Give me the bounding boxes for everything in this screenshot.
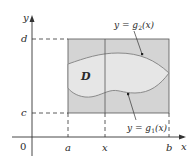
- tick-label-d: d: [21, 33, 27, 44]
- lower-curve-arg: (x): [155, 123, 168, 133]
- upper-curve-prefix: y =: [113, 20, 132, 30]
- y-axis-arrow-icon: [30, 15, 35, 22]
- tick-label-c: c: [21, 107, 27, 118]
- tick-label-b: b: [166, 142, 172, 153]
- lower-curve-label: y = g1(x): [126, 123, 168, 134]
- origin-label: 0: [20, 141, 26, 152]
- upper-curve-leader-tip: [141, 53, 143, 55]
- upper-curve-arg: (x): [142, 20, 155, 30]
- upper-curve-label: y = g2(x): [113, 20, 155, 31]
- x-axis-label: x: [181, 141, 187, 152]
- lower-curve-leader-tip: [127, 93, 129, 95]
- type-i-region-diagram: y x 0 d c a x b D y = g2(x) y = g1(x): [0, 0, 195, 167]
- y-axis-label: y: [22, 12, 29, 23]
- lower-curve-prefix: y =: [126, 123, 145, 133]
- tick-label-x: x: [102, 142, 108, 153]
- x-axis-arrow-icon: [179, 135, 186, 140]
- tick-label-a: a: [65, 142, 71, 153]
- region-d-label: D: [80, 70, 91, 83]
